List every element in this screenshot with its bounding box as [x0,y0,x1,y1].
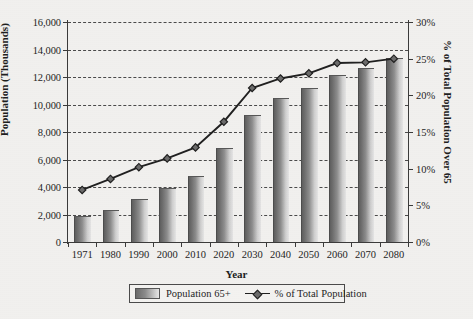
line-marker [107,175,114,182]
x-tick-label: 2050 [298,249,319,260]
x-tick-label: 2060 [327,249,348,260]
x-tick-mark [181,242,182,247]
line-marker [333,59,340,66]
x-tick-mark [266,242,267,247]
y-tick-label: 8,000 [38,127,68,138]
line-marker [135,164,142,171]
secondary-y-tick-label: 10% [408,163,435,174]
x-tick-label: 2080 [383,249,404,260]
x-tick-label: 2010 [185,249,206,260]
x-tick-label: 2040 [270,249,291,260]
x-tick-label: 1980 [100,249,121,260]
chart-legend: Population 65+ % of Total Population [129,284,345,303]
x-tick-label: 2030 [242,249,263,260]
y-tick-label: 0 [56,237,68,248]
line-diamond-icon [245,289,270,298]
secondary-y-axis-title: % of Total Population Over 65 [442,40,454,184]
x-tick-label: 2000 [157,249,178,260]
line-path [82,59,394,190]
y-axis-title: Population (Thousands) [0,23,10,136]
x-tick-mark [96,242,97,247]
legend-label-percent: % of Total Population [275,288,367,299]
x-tick-mark [408,242,409,247]
y-tick-label: 10,000 [33,99,68,110]
y-tick-label: 6,000 [38,154,68,165]
secondary-y-tick-label: 30% [408,17,435,28]
x-tick-mark [295,242,296,247]
plot-area: 02,0004,0006,0008,00010,00012,00014,0001… [68,22,408,242]
secondary-y-tick-label: 15% [408,127,435,138]
line-marker [305,70,312,77]
secondary-y-tick-label: 5% [408,200,430,211]
line-marker [362,59,369,66]
line-marker [277,75,284,82]
legend-item-population: Population 65+ [135,288,231,299]
x-tick-mark [380,242,381,247]
x-tick-label: 2070 [355,249,376,260]
x-tick-mark [323,242,324,247]
x-tick-mark [238,242,239,247]
y-tick-label: 12,000 [33,72,68,83]
x-tick-mark [125,242,126,247]
x-tick-label: 2020 [213,249,234,260]
bar-swatch-icon [135,288,160,299]
line-marker [390,55,397,62]
secondary-y-tick-label: 20% [408,90,435,101]
legend-item-percent: % of Total Population [245,288,367,299]
legend-label-population: Population 65+ [166,288,231,299]
chart-container: Population (Thousands) % of Total Popula… [0,0,473,319]
y-tick-label: 2,000 [38,209,68,220]
line-series [68,22,408,242]
x-tick-mark [68,242,69,247]
secondary-y-tick-label: 25% [408,53,435,64]
x-tick-mark [210,242,211,247]
y-tick-label: 16,000 [33,17,68,28]
x-tick-label: 1990 [128,249,149,260]
y-tick-label: 4,000 [38,182,68,193]
x-tick-label: 1971 [72,249,93,260]
x-tick-mark [153,242,154,247]
secondary-y-tick-label: 0% [408,237,430,248]
line-marker [78,186,85,193]
x-axis-title: Year [0,268,473,280]
x-tick-mark [351,242,352,247]
y-tick-label: 14,000 [33,44,68,55]
line-marker [163,155,170,162]
